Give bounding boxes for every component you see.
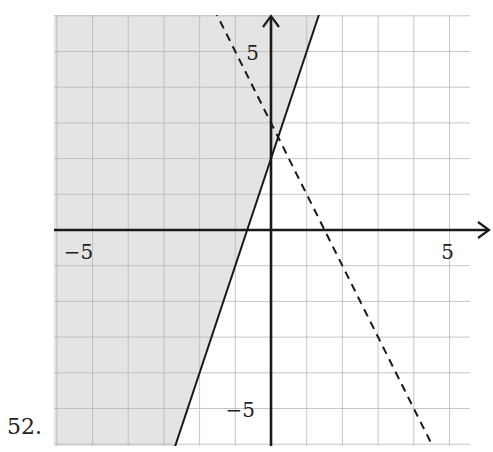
x-tick-label: 5 xyxy=(441,240,454,264)
problem-number: 52. xyxy=(7,414,42,439)
coordinate-plane: −555−5 xyxy=(0,0,493,452)
y-tick-label: 5 xyxy=(246,41,259,65)
y-tick-label: −5 xyxy=(226,398,255,422)
x-tick-label: −5 xyxy=(64,240,93,264)
